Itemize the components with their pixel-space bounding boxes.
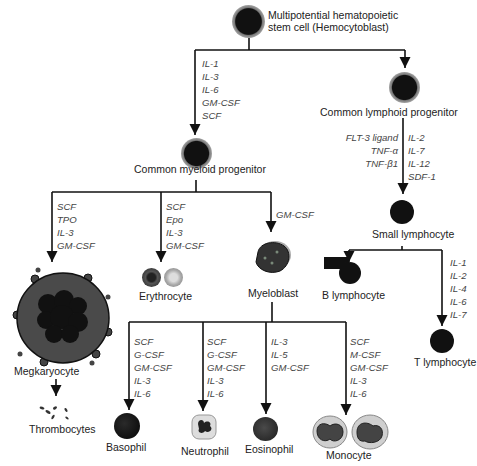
factor: IL-6 (450, 295, 467, 308)
factor: IL-6 (350, 387, 388, 400)
erythrocyte-light-icon (164, 268, 183, 287)
myeloblast-icon (252, 238, 294, 278)
factor: IL-3 (166, 226, 204, 239)
factor: GM-CSF (134, 361, 172, 374)
factor: IL-1 (202, 57, 240, 70)
megakaryocyte-icon (8, 262, 116, 370)
factor: SCF (166, 200, 204, 213)
factor: IL-2 (408, 131, 436, 144)
factor: TNF-α (332, 144, 398, 157)
factor: IL-6 (207, 387, 245, 400)
factors-myeloblast-to-basophil: SCF G-CSF GM-CSF IL-3 IL-6 (134, 335, 172, 400)
erythrocyte-dark-icon (142, 268, 161, 287)
factors-myeloblast-to-eosinophil: IL-3 IL-5 GM-CSF (271, 335, 309, 374)
factors-clp-right: IL-2 IL-7 IL-12 SDF-1 (408, 131, 436, 183)
t-lymphocyte-label: T lymphocyte (414, 356, 476, 368)
factor: IL-6 (134, 387, 172, 400)
factors-myeloblast-to-neutrophil: SCF G-CSF GM-CSF IL-3 IL-6 (207, 335, 245, 400)
factor: IL-1 (450, 256, 467, 269)
factor: GM-CSF (202, 96, 240, 109)
factor: GM-CSF (207, 361, 245, 374)
factor: FLT-3 ligand (332, 131, 398, 144)
factor: IL-12 (408, 157, 436, 170)
erythrocyte-label: Erythrocyte (139, 290, 192, 302)
factor: SCF (350, 335, 388, 348)
factor: SCF (202, 109, 240, 122)
cmp-label: Common myeloid progenitor (134, 163, 266, 175)
factor: IL-2 (450, 269, 467, 282)
basophil-label: Basophil (106, 441, 146, 453)
factor: IL-4 (450, 282, 467, 295)
eosinophil-label: Eosinophil (245, 443, 293, 455)
factor: Epo (166, 213, 204, 226)
factor: IL-3 (134, 374, 172, 387)
factor: IL-3 (207, 374, 245, 387)
hsc-label-line2: stem cell (Hemocytoblast) (268, 21, 398, 33)
small-lymphocyte-label: Small lymphocyte (372, 228, 454, 240)
factors-clp-left: FLT-3 ligand TNF-α TNF-β1 (332, 131, 398, 170)
factor: TPO (57, 213, 95, 226)
factor: GM-CSF (166, 239, 204, 252)
factor: SDF-1 (408, 170, 436, 183)
factor: IL-6 (202, 83, 240, 96)
factor: TNF-β1 (332, 157, 398, 170)
factors-hsc-to-cmp: IL-1 IL-3 IL-6 GM-CSF SCF (202, 57, 240, 122)
factors-cmp-to-megakaryocyte: SCF TPO IL-3 GM-CSF (57, 200, 95, 252)
lymphoid-progenitor-icon (389, 72, 420, 103)
factor: GM-CSF (350, 361, 388, 374)
factor: G-CSF (207, 348, 245, 361)
b-lymphocyte-icon (339, 262, 361, 284)
factor: IL-3 (202, 70, 240, 83)
thrombocytes-icon (38, 404, 72, 422)
thrombocytes-label: Thrombocytes (29, 423, 96, 435)
b-lymphocyte-label: B lymphocyte (322, 289, 385, 301)
basophil-icon (114, 413, 140, 439)
factor: IL-3 (57, 226, 95, 239)
stem-cell-icon (232, 5, 265, 38)
small-lymphocyte-icon (390, 200, 414, 224)
factor: IL-7 (408, 144, 436, 157)
monocyte-label: Monocyte (326, 449, 372, 461)
megakaryocyte-label: Megkaryocyte (14, 365, 79, 377)
factors-myeloblast-to-monocyte: SCF M-CSF GM-CSF IL-3 IL-6 (350, 335, 388, 400)
neutrophil-icon (190, 412, 218, 442)
factor: SCF (207, 335, 245, 348)
hsc-label: Multipotential hematopoietic stem cell (… (268, 9, 398, 33)
factor: GM-CSF (276, 208, 314, 221)
factor: GM-CSF (271, 361, 309, 374)
factor: G-CSF (134, 348, 172, 361)
clp-label: Common lymphoid progenitor (320, 106, 458, 118)
neutrophil-label: Neutrophil (181, 445, 229, 457)
monocyte-icon (311, 414, 395, 450)
eosinophil-icon (253, 417, 278, 441)
factors-cmp-to-erythrocyte: SCF Epo IL-3 GM-CSF (166, 200, 204, 252)
factor: IL-5 (271, 348, 309, 361)
factor: IL-3 (271, 335, 309, 348)
myeloblast-label: Myeloblast (248, 287, 298, 299)
factor: IL-3 (350, 374, 388, 387)
factors-cmp-to-myeloblast: GM-CSF (276, 208, 314, 221)
factors-small-to-t: IL-1 IL-2 IL-4 IL-6 IL-7 (450, 256, 467, 321)
factor: SCF (57, 200, 95, 213)
factor: GM-CSF (57, 239, 95, 252)
factor: M-CSF (350, 348, 388, 361)
factor: IL-7 (450, 308, 467, 321)
factor: SCF (134, 335, 172, 348)
t-lymphocyte-icon (430, 329, 454, 353)
hsc-label-line1: Multipotential hematopoietic (268, 9, 398, 21)
